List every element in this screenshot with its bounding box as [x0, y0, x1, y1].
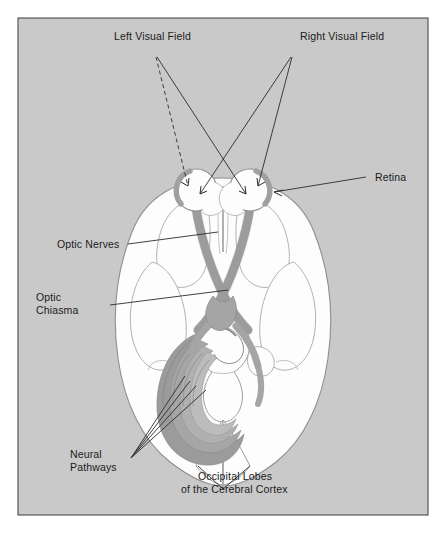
label-left-visual-field: Left Visual Field: [114, 30, 191, 43]
label-neural-pathways-line2: Pathways: [70, 461, 117, 474]
label-occipital-lobes-line2: of the Cerebral Cortex: [181, 483, 288, 496]
label-optic-chiasma-line2: Chiasma: [36, 304, 78, 317]
label-occipital-lobes-line1: Occipital Lobes: [198, 470, 272, 483]
label-retina: Retina: [375, 171, 406, 184]
label-optic-chiasma-line1: Optic: [36, 291, 61, 304]
label-right-visual-field: Right Visual Field: [300, 30, 384, 43]
label-neural-pathways-line1: Neural: [70, 448, 102, 461]
figure-canvas: Left Visual Field Right Visual Field Ret…: [0, 0, 446, 533]
optic-tract-right-posterior: [258, 366, 261, 404]
label-optic-nerves: Optic Nerves: [57, 238, 119, 251]
visual-pathway-diagram: [0, 0, 446, 533]
